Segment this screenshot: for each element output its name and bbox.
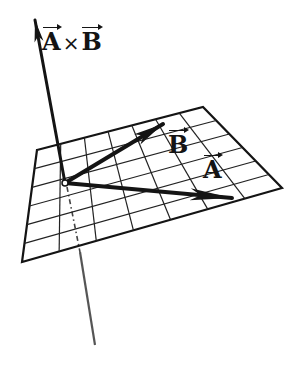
label-a-in-product: A <box>42 30 61 54</box>
vector-b-label: B <box>168 133 188 157</box>
axis-below-plane <box>80 252 95 345</box>
cross-operator: × <box>63 31 80 55</box>
axis-hidden-dashed <box>67 187 80 252</box>
vector-a-label: A <box>203 158 222 182</box>
vector-a-letter: A <box>203 158 222 182</box>
cross-product-label: A×B <box>42 30 102 54</box>
cross-product-diagram: A×B B A <box>0 0 301 368</box>
origin-point <box>62 180 68 186</box>
label-b-in-product: B <box>81 30 101 54</box>
grid-line <box>25 175 269 244</box>
vector-b-letter: B <box>168 133 188 157</box>
